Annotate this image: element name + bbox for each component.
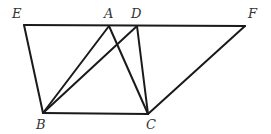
point-label-e: E bbox=[11, 6, 22, 21]
point-label-c: C bbox=[146, 117, 156, 132]
segments-group bbox=[24, 25, 245, 114]
segment-bd bbox=[43, 26, 137, 113]
segment-cf bbox=[148, 26, 245, 114]
segment-eb bbox=[24, 25, 43, 113]
segment-ef bbox=[24, 25, 245, 26]
geometry-diagram: E A D F B C bbox=[0, 0, 271, 134]
point-label-d: D bbox=[130, 6, 142, 21]
point-label-b: B bbox=[35, 117, 46, 132]
point-label-f: F bbox=[247, 6, 258, 21]
point-label-a: A bbox=[103, 6, 113, 21]
segment-ba bbox=[43, 26, 109, 113]
segment-bc bbox=[43, 113, 148, 114]
